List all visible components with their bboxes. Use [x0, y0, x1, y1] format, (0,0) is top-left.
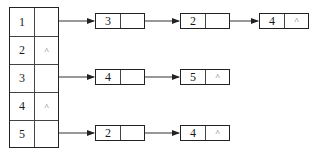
node-next: [121, 70, 144, 84]
head-pointer: [35, 121, 58, 147]
node-value: 5: [181, 70, 206, 84]
list-node: 5 ^: [180, 69, 230, 85]
node-value: 2: [181, 14, 206, 28]
null-pointer-icon: ^: [206, 126, 229, 140]
null-pointer-icon: ^: [206, 70, 229, 84]
list-node: 3: [95, 13, 145, 29]
head-index: 1: [10, 8, 35, 36]
null-pointer-icon: ^: [35, 93, 58, 120]
head-pointer: [35, 8, 58, 36]
head-row-4: 4 ^: [10, 92, 58, 120]
list-node: 2: [180, 13, 230, 29]
list-node: 2: [95, 125, 145, 141]
head-row-5: 5: [10, 120, 58, 147]
node-next: [121, 126, 144, 140]
head-row-3: 3: [10, 64, 58, 92]
list-node: 4 ^: [180, 125, 230, 141]
head-table: 1 2 ^ 3 4 ^ 5: [9, 7, 59, 148]
list-node: 4 ^: [259, 13, 309, 29]
head-index: 4: [10, 93, 35, 120]
head-row-1: 1: [10, 8, 58, 36]
node-value: 2: [96, 126, 121, 140]
node-next: [121, 14, 144, 28]
head-pointer: [35, 65, 58, 92]
null-pointer-icon: ^: [35, 37, 58, 64]
head-index: 2: [10, 37, 35, 64]
node-value: 4: [181, 126, 206, 140]
head-index: 5: [10, 121, 35, 147]
head-index: 3: [10, 65, 35, 92]
head-row-2: 2 ^: [10, 36, 58, 64]
null-pointer-icon: ^: [285, 14, 308, 28]
node-value: 4: [96, 70, 121, 84]
node-value: 3: [96, 14, 121, 28]
node-next: [206, 14, 229, 28]
node-value: 4: [260, 14, 285, 28]
list-node: 4: [95, 69, 145, 85]
